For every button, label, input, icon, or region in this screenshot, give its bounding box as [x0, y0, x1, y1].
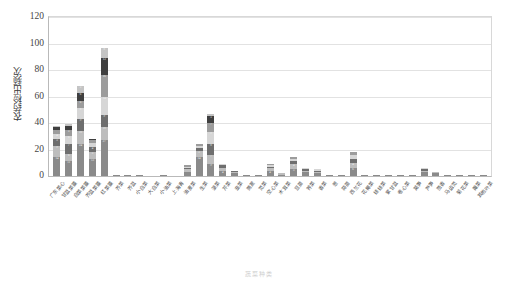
- bar-segment: [444, 175, 451, 176]
- bar-column[interactable]: [158, 17, 170, 176]
- bar-column[interactable]: [359, 17, 371, 176]
- x-tick-label: 豆苗: [292, 179, 304, 191]
- y-axis-tick-labels: 120100806040200: [0, 0, 44, 281]
- bar-column[interactable]: 1354: [87, 17, 99, 176]
- stacked-bar: 54: [290, 157, 297, 176]
- y-tick-label: 120: [0, 11, 44, 21]
- stacked-bar: [184, 165, 191, 176]
- bar-column[interactable]: [406, 17, 418, 176]
- stacked-bar: [278, 173, 285, 176]
- stacked-bar: [361, 175, 368, 176]
- bar-segment: [243, 175, 250, 176]
- bar-column[interactable]: [169, 17, 181, 176]
- bar-column[interactable]: 4: [217, 17, 229, 176]
- stacked-bar: 241098665: [77, 86, 84, 176]
- bar-column[interactable]: 978975: [205, 17, 217, 176]
- bar-segment: [326, 175, 333, 176]
- bar-segment: [302, 172, 309, 176]
- bar-column[interactable]: [241, 17, 253, 176]
- bar-segment: 27: [101, 140, 108, 176]
- bar-segment: 7: [207, 155, 214, 164]
- bar-segment: [184, 172, 191, 176]
- stacked-bar: [136, 175, 143, 176]
- bar-segment: 9: [53, 146, 60, 158]
- bar-column[interactable]: [122, 17, 134, 176]
- bar-segment: [338, 175, 345, 176]
- x-tick-label: 生菜: [196, 179, 208, 191]
- x-tick-label: 菊花菜: [455, 179, 470, 195]
- bar-segment: 9: [77, 119, 84, 131]
- stacked-bar: 271091416138: [101, 48, 108, 176]
- bar-segment: [421, 172, 428, 176]
- bar-column[interactable]: [371, 17, 383, 176]
- x-tick-label: 茼蒿: [244, 179, 256, 191]
- bar-column[interactable]: [252, 17, 264, 176]
- bar-column[interactable]: [276, 17, 288, 176]
- stacked-bar: [314, 169, 321, 176]
- bar-column[interactable]: [418, 17, 430, 176]
- bar-segment: [397, 175, 404, 176]
- bar-column[interactable]: [394, 17, 406, 176]
- stacked-bar: [113, 175, 120, 176]
- bar-column[interactable]: [335, 17, 347, 176]
- x-tick-label: 空心菜: [265, 179, 280, 195]
- bar-segment: [456, 175, 463, 176]
- bar-column[interactable]: 145: [193, 17, 205, 176]
- bar-column[interactable]: [300, 17, 312, 176]
- stacked-bar: [243, 175, 250, 176]
- bar-column[interactable]: [466, 17, 478, 176]
- bar-column[interactable]: [134, 17, 146, 176]
- bar-column[interactable]: 271091416138: [98, 17, 110, 176]
- x-tick-label: 娃娃菜: [372, 179, 387, 195]
- bar-segment: [160, 175, 167, 176]
- x-tick-label: 芦笋: [422, 179, 434, 191]
- stacked-bar: [373, 175, 380, 176]
- stacked-bar: 64: [350, 152, 357, 176]
- bar-column[interactable]: [454, 17, 466, 176]
- bar-segment: [361, 175, 368, 176]
- bar-column[interactable]: [312, 17, 324, 176]
- bar-segment: [113, 175, 120, 176]
- bar-column[interactable]: [383, 17, 395, 176]
- bar-segment: 7: [207, 123, 214, 132]
- bar-column[interactable]: 14954: [51, 17, 63, 176]
- x-tick-label: 大白菜: [146, 179, 161, 195]
- bar-column[interactable]: 54: [288, 17, 300, 176]
- bar-column[interactable]: [442, 17, 454, 176]
- stacked-bar: [456, 175, 463, 176]
- bar-segment: 7: [65, 144, 72, 153]
- stacked-bar: [124, 175, 131, 176]
- stacked-bar: [231, 171, 238, 176]
- bar-column[interactable]: [146, 17, 158, 176]
- bar-segment: 4: [219, 171, 226, 176]
- bar-segment: 5: [290, 169, 297, 176]
- stacked-bar: [338, 175, 345, 176]
- stacked-bar: [255, 175, 262, 176]
- bar-segment: 6: [350, 168, 357, 176]
- bar-column[interactable]: [323, 17, 335, 176]
- bar-segment: 5: [77, 86, 84, 93]
- bar-segment: 8: [101, 48, 108, 59]
- bar-column[interactable]: 241098665: [75, 17, 87, 176]
- x-tick-label: 紫甘蓝: [384, 179, 399, 195]
- x-tick-label: 上海青: [170, 179, 185, 195]
- x-tick-label: 菠菜: [208, 179, 220, 191]
- bar-series-container: 1495411676524109866513542710914161381459…: [49, 17, 491, 176]
- bar-column[interactable]: [181, 17, 193, 176]
- stacked-bar: [409, 175, 416, 176]
- bar-column[interactable]: 116765: [63, 17, 75, 176]
- bar-column[interactable]: [477, 17, 489, 176]
- stacked-bar: 145: [196, 144, 203, 176]
- bar-segment: [278, 175, 285, 176]
- bar-column[interactable]: 4: [264, 17, 276, 176]
- bar-segment: 9: [101, 115, 108, 127]
- bar-segment: 9: [207, 132, 214, 144]
- bar-column[interactable]: [430, 17, 442, 176]
- bar-column[interactable]: [229, 17, 241, 176]
- x-axis-tick-labels: 广东菜心甘蓝菜薹白菜菜薹芥蓝菜薹红菜薹芥菜芥蓝小白菜大白菜小油菜上海青油麦菜生菜…: [48, 179, 492, 249]
- bar-column[interactable]: [110, 17, 122, 176]
- bar-segment: 8: [77, 108, 84, 119]
- bar-segment: 13: [89, 159, 96, 176]
- bar-segment: 6: [65, 136, 72, 144]
- bar-column[interactable]: 64: [347, 17, 359, 176]
